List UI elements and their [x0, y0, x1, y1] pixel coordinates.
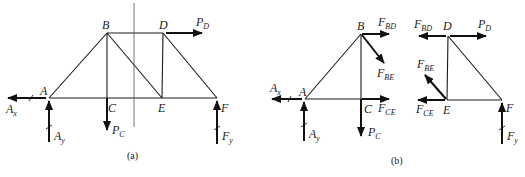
force-label-FCE: FCE	[377, 101, 396, 117]
force-label-Ax: Ax	[5, 102, 17, 118]
force-label-FCE: FCE	[415, 102, 434, 118]
member-AB	[305, 34, 361, 99]
force-label-Fy: Fy	[221, 129, 233, 145]
node-label-F: F	[220, 101, 229, 115]
member-DF	[163, 33, 217, 98]
force-label-FBD: FBD	[413, 17, 432, 33]
node-label-C: C	[108, 101, 117, 115]
node-label-F: F	[505, 101, 514, 115]
force-label-Ay: Ay	[308, 127, 320, 143]
node-label-E: E	[442, 103, 451, 117]
force-Ay-a	[46, 101, 52, 142]
force-label-FBE: FBE	[376, 66, 394, 82]
node-label-A: A	[39, 84, 48, 98]
arrow-FBE	[362, 35, 384, 63]
truss-members-a	[49, 33, 217, 98]
node-label-A: A	[298, 85, 307, 99]
force-Ay-b	[301, 102, 307, 141]
node-label-C: C	[364, 102, 373, 116]
panel-b: A B C Ax Ay PC FBD FBE FCE D E F	[269, 15, 518, 167]
member-DE	[447, 36, 448, 100]
caption-a: (a)	[127, 150, 138, 162]
member-DF	[448, 36, 502, 100]
force-label-PD: PD	[195, 15, 209, 31]
node-label-B: B	[102, 18, 110, 32]
panel-a: A B C D E F Ax Ay PC PD Fy (a)	[5, 3, 233, 162]
member-BE	[107, 33, 162, 98]
arrow-FBE	[425, 75, 446, 99]
force-label-PD: PD	[477, 17, 491, 33]
caption-b: (b)	[391, 155, 403, 167]
node-label-E: E	[157, 101, 166, 115]
node-label-D: D	[158, 18, 168, 32]
force-label-FBE: FBE	[416, 57, 434, 73]
member-DE	[162, 33, 163, 98]
force-label-Ax: Ax	[269, 81, 281, 97]
force-label-PC: PC	[111, 123, 125, 139]
node-label-D: D	[442, 19, 452, 33]
force-Fy-a	[214, 101, 220, 144]
truss-figure: A B C D E F Ax Ay PC PD Fy (a)	[0, 0, 525, 177]
force-label-PC: PC	[367, 125, 381, 141]
node-label-B: B	[357, 19, 365, 33]
free-body-right: D E F FBD PD FBE FCE Fy	[413, 17, 518, 145]
force-label-Ay: Ay	[53, 129, 65, 145]
force-label-Fy: Fy	[506, 129, 518, 145]
force-Fy-b	[499, 103, 505, 144]
free-body-left: A B C Ax Ay PC FBD FBE FCE	[269, 15, 396, 143]
force-label-FBD: FBD	[377, 15, 396, 31]
member-AB	[49, 33, 107, 98]
